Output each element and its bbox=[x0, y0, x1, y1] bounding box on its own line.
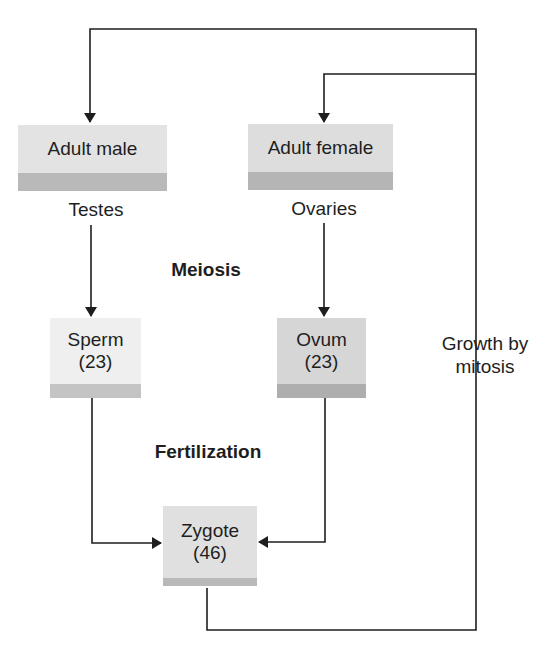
sperm-box: Sperm (23) bbox=[50, 318, 141, 398]
adult-female-box: Adult female bbox=[248, 124, 393, 190]
adult-male-label: Adult male bbox=[48, 138, 138, 160]
adult-male-box: Adult male bbox=[18, 125, 167, 191]
growth-by-mitosis-label: Growth by mitosis bbox=[430, 332, 540, 378]
female-feedback-line bbox=[324, 74, 476, 122]
adult-female-label: Adult female bbox=[268, 137, 374, 159]
sperm-to-zygote-line bbox=[92, 397, 161, 543]
growth-label-line2: mitosis bbox=[430, 355, 540, 378]
ovaries-label: Ovaries bbox=[284, 197, 364, 220]
fertilization-label: Fertilization bbox=[140, 440, 276, 463]
meiosis-label: Meiosis bbox=[156, 258, 256, 281]
ovum-label: Ovum bbox=[296, 329, 347, 351]
testes-label: Testes bbox=[56, 198, 136, 221]
sperm-label: Sperm bbox=[68, 329, 124, 351]
zygote-label: Zygote bbox=[181, 520, 239, 542]
ovum-chromosome-count: (23) bbox=[305, 351, 339, 373]
zygote-box: Zygote (46) bbox=[163, 506, 257, 586]
zygote-chromosome-count: (46) bbox=[193, 542, 227, 564]
sperm-chromosome-count: (23) bbox=[79, 351, 113, 373]
ovum-box: Ovum (23) bbox=[277, 318, 366, 398]
ovum-to-zygote-line bbox=[259, 397, 325, 542]
growth-label-line1: Growth by bbox=[430, 332, 540, 355]
